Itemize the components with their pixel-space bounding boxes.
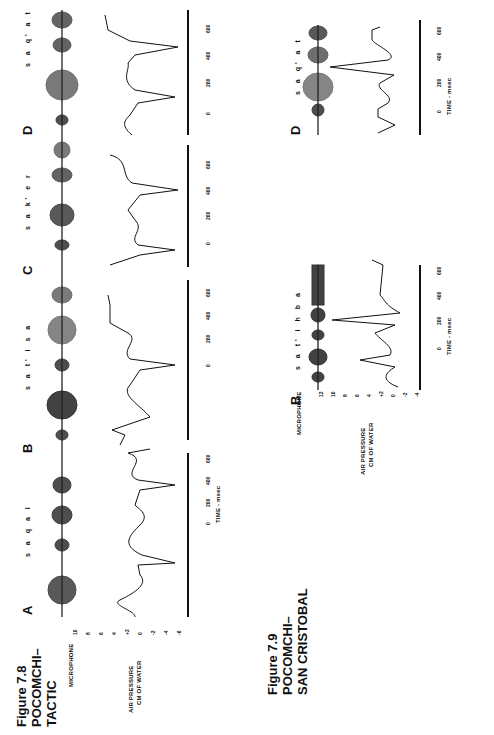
fig79-d-time-label: TIME - msec (446, 78, 452, 115)
fig79-b-time-label: TIME - msec (446, 318, 452, 355)
fig79-traces (0, 0, 494, 735)
rotated-page: Figure 7.8 POCOMCHI– TACTIC MICROPHONE A… (0, 0, 494, 735)
